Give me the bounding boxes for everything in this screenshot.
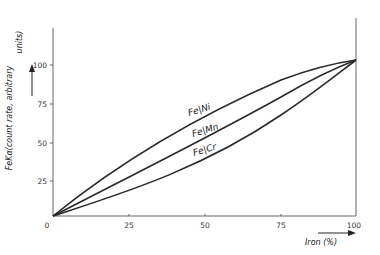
x-tick-50: 50	[200, 221, 210, 230]
x-tick-75: 75	[276, 221, 286, 230]
curve-label-fecr: Fe|Cr	[192, 141, 219, 158]
y-tick-50: 50	[37, 139, 47, 148]
y-axis-title-line2: units)	[15, 31, 24, 54]
chart: 100 75 50 25 0 25 50 75 100 Fe|Ni Fe|Mn …	[0, 0, 380, 255]
y-axis-title: FeKα(count rate, arbitrary units)	[5, 31, 24, 171]
y-tick-100: 100	[33, 61, 48, 70]
curve-label-femn: Fe|Mn	[191, 121, 220, 139]
y-ticks: 100 75 50 25	[33, 61, 53, 186]
x-arrow-icon	[318, 230, 356, 236]
x-tick-25: 25	[124, 221, 134, 230]
x-tick-0: 0	[45, 221, 50, 230]
x-axis-title: Iron (%)	[305, 238, 337, 247]
curve-femn	[53, 60, 356, 216]
y-tick-75: 75	[37, 100, 47, 109]
y-axis-title-line1: FeKα(count rate, arbitrary	[5, 66, 14, 171]
y-tick-25: 25	[37, 177, 47, 186]
x-tick-100: 100	[347, 221, 362, 230]
